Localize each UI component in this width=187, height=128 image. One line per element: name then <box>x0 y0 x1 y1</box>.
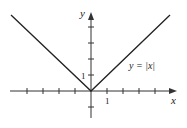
graph-canvas: y x 1 1 y = |x| <box>0 0 187 128</box>
y-tick-label-one: 1 <box>81 71 86 81</box>
x-tick-label-one: 1 <box>105 96 110 106</box>
y-axis-label: y <box>79 7 85 19</box>
x-axis-label: x <box>170 94 176 106</box>
curve-label: y = |x| <box>128 60 155 71</box>
y-axis-arrow-icon <box>88 12 94 20</box>
